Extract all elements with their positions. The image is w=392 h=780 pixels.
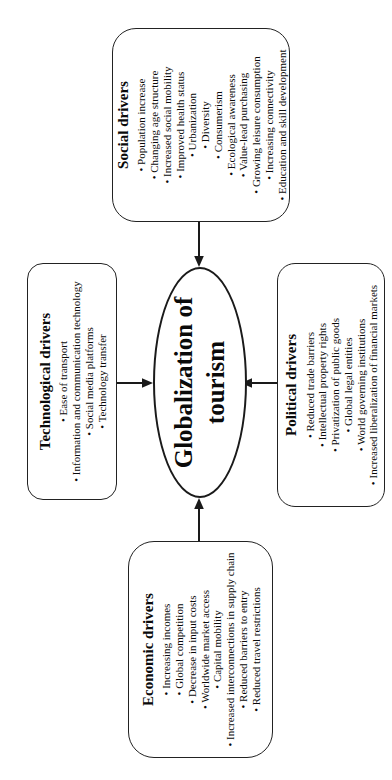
ellipse-title-line1: Globalization of (168, 297, 201, 469)
driver-item: • Consumerism (212, 91, 225, 159)
economic-drivers-title: Economic drivers (139, 593, 158, 706)
political-drivers-title: Political drivers (282, 334, 301, 436)
political-drivers-items: • Reduced trade barriers• Intellectual p… (304, 285, 381, 485)
driver-item: • Intellectual property rights (316, 323, 329, 447)
driver-item: • Decrease in input costs (186, 595, 199, 703)
driver-item: • Growing leisure consumption (250, 56, 263, 193)
driver-item: • Increasing connectivity (263, 70, 276, 180)
driver-item: • Increased interconnections in supply c… (224, 552, 237, 746)
driver-item: • Information and communication technolo… (70, 281, 83, 482)
driver-item: • Changing age structure (148, 71, 161, 180)
driver-item: • Global legal entities (342, 337, 355, 432)
driver-item: • Increased liberalization of financial … (367, 285, 380, 485)
driver-item: • Reduced barriers to entry (237, 590, 250, 708)
technological-drivers-title: Technological drivers (36, 313, 55, 450)
driver-item: • Privatization of public goods (329, 318, 342, 452)
driver-item: • Social media platforms (83, 327, 96, 436)
arrow-technological-to-center (117, 378, 153, 388)
technological-drivers-box: Technological drivers • Ease of transpor… (27, 263, 117, 500)
driver-item: • Ease of transport (57, 341, 70, 422)
arrow-social-to-center (194, 222, 204, 267)
globalization-of-tourism-ellipse: Globalization of tourism (153, 267, 247, 498)
driver-item: • Worldwide market access (199, 590, 212, 709)
diagram-viewport: Technological drivers • Ease of transpor… (0, 0, 392, 780)
driver-item: • Capital mobility (211, 610, 224, 688)
driver-item: • Urbanization (186, 93, 199, 157)
driver-item: • Global competition (173, 604, 186, 696)
social-drivers-title: Social drivers (114, 81, 133, 169)
driver-item: • Reduced travel restrictions (250, 587, 263, 712)
social-drivers-box: Social drivers • Population increase• Ch… (112, 28, 290, 222)
economic-drivers-box: Economic drivers • Increasing incomes• G… (128, 541, 273, 758)
driver-item: • Ecological awareness (225, 74, 238, 176)
driver-item: • Increasing incomes (160, 604, 173, 696)
technological-drivers-items: • Ease of transport• Information and com… (57, 281, 108, 482)
driver-item: • Diversity (199, 101, 212, 149)
driver-item: • Value-lead purchasing (237, 73, 250, 177)
arrow-economic-to-center (194, 498, 204, 541)
driver-item: • Education and skill development (276, 49, 289, 200)
social-drivers-items: • Population increase• Changing age stru… (135, 49, 288, 200)
driver-item: • Population increase (135, 78, 148, 171)
economic-drivers-items: • Increasing incomes• Global competition… (160, 552, 262, 746)
ellipse-title-line2: tourism (200, 341, 233, 424)
driver-item: • Reduced trade barriers (304, 332, 317, 438)
driver-item: • Increased social mobility (161, 66, 174, 183)
driver-item: • World governing institutions (355, 319, 368, 452)
political-drivers-box: Political drivers • Reduced trade barrie… (277, 263, 385, 507)
diagram-canvas: Technological drivers • Ease of transpor… (0, 0, 392, 780)
driver-item: • Technology transfer (96, 334, 109, 429)
driver-item: • Improved health status (174, 72, 187, 179)
